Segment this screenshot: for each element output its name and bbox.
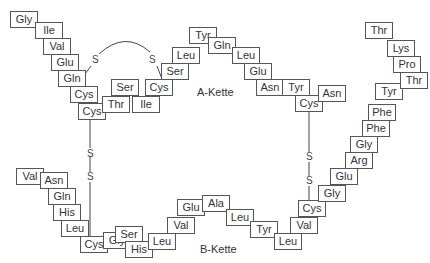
amino-acid-residue: Leu bbox=[232, 47, 260, 64]
amino-acid-residue: Gln bbox=[48, 188, 76, 205]
amino-acid-residue: Glu bbox=[244, 63, 272, 80]
a-chain-label: A-Kette bbox=[197, 86, 234, 98]
sulfur-atom: S bbox=[92, 54, 99, 65]
amino-acid-residue: Phe bbox=[368, 104, 396, 121]
amino-acid-residue: Ile bbox=[132, 96, 160, 113]
sulfur-atom: S bbox=[306, 175, 313, 186]
amino-acid-residue: Gly bbox=[350, 136, 378, 153]
sulfur-atom: S bbox=[306, 151, 313, 162]
amino-acid-residue: Cys bbox=[145, 79, 173, 96]
sulfur-atom: S bbox=[87, 148, 94, 159]
amino-acid-residue: Asn bbox=[40, 172, 68, 189]
amino-acid-residue: Glu bbox=[177, 199, 205, 216]
amino-acid-residue: Asn bbox=[318, 85, 346, 102]
amino-acid-residue: Leu bbox=[148, 233, 176, 250]
amino-acid-residue: Thr bbox=[400, 72, 428, 89]
amino-acid-residue: Asn bbox=[256, 79, 284, 96]
amino-acid-residue: Tyr bbox=[282, 79, 310, 96]
amino-acid-residue: Glu bbox=[51, 54, 79, 71]
amino-acid-residue: Lys bbox=[387, 40, 415, 57]
amino-acid-residue: Pro bbox=[393, 56, 421, 73]
amino-acid-residue: Val bbox=[43, 38, 71, 55]
amino-acid-residue: Leu bbox=[274, 233, 302, 250]
sulfur-atom: S bbox=[87, 171, 94, 182]
amino-acid-residue: Thr bbox=[102, 96, 130, 113]
amino-acid-residue: Ser bbox=[111, 79, 139, 96]
amino-acid-residue: Leu bbox=[61, 220, 89, 237]
amino-acid-residue: Arg bbox=[345, 152, 373, 169]
amino-acid-residue: Phe bbox=[362, 120, 390, 137]
amino-acid-residue: Val bbox=[290, 217, 318, 234]
amino-acid-residue: Leu bbox=[172, 47, 200, 64]
amino-acid-residue: Gln bbox=[58, 70, 86, 87]
amino-acid-residue: Ile bbox=[35, 22, 63, 39]
amino-acid-residue: Gly bbox=[318, 185, 346, 202]
amino-acid-residue: Gly bbox=[10, 11, 38, 28]
sulfur-atom: S bbox=[149, 54, 156, 65]
amino-acid-residue: Cys bbox=[70, 86, 98, 103]
amino-acid-residue: Thr bbox=[365, 22, 393, 39]
amino-acid-residue: Val bbox=[167, 217, 195, 234]
amino-acid-residue: Cys bbox=[298, 200, 326, 217]
amino-acid-residue: Glu bbox=[330, 168, 358, 185]
amino-acid-residue: Ser bbox=[161, 63, 189, 80]
amino-acid-residue: Tyr bbox=[375, 83, 403, 100]
b-chain-label: B-Kette bbox=[200, 243, 237, 255]
amino-acid-residue: His bbox=[53, 204, 81, 221]
